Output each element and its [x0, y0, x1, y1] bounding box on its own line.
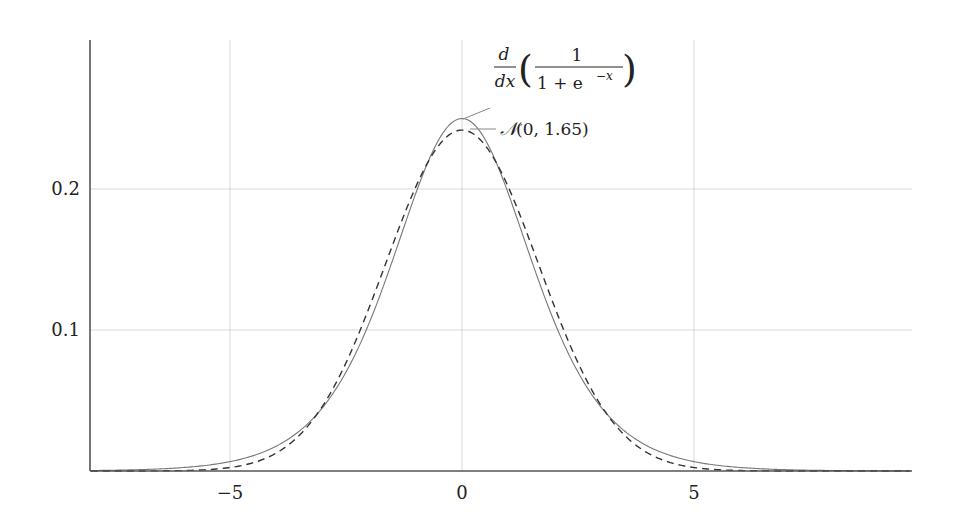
x-tick-label: −5: [217, 482, 244, 503]
frac-numerator: 1: [572, 45, 583, 65]
frac-exponent: −x: [596, 69, 613, 83]
tick-labels: −5050.10.2: [51, 178, 699, 503]
annotation-leader-logistic: [463, 108, 490, 119]
left-paren: (: [518, 47, 533, 91]
y-tick-label: 0.1: [51, 319, 80, 340]
chart-canvas: −5050.10.2 d dx ( 1 1 + e −x ) 𝒩 (0, 1.6…: [0, 0, 965, 529]
plot-curves: [91, 119, 910, 471]
y-tick-label: 0.2: [51, 178, 80, 199]
axes: [90, 40, 912, 471]
annotation-normal: 𝒩 (0, 1.65): [500, 118, 589, 139]
annotation-logistic-derivative: d dx ( 1 1 + e −x ): [494, 44, 637, 93]
x-tick-label: 0: [456, 482, 467, 503]
frac-denominator: 1 + e: [537, 73, 583, 93]
deriv-numerator: d: [499, 44, 510, 64]
deriv-denominator: dx: [495, 71, 516, 91]
grid-lines: [90, 40, 912, 471]
right-paren: ): [622, 47, 637, 91]
normal-args: (0, 1.65): [516, 119, 589, 139]
normal-curve: [91, 130, 910, 471]
x-tick-label: 5: [688, 482, 699, 503]
